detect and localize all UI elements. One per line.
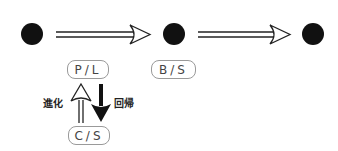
bs-label: B/S [159,63,188,77]
bs-box: B/S [151,60,196,79]
node-dot-2 [163,23,185,45]
cs-label: C/S [74,129,103,143]
arrow-up-hollow-icon [71,84,91,123]
cs-box: C/S [68,126,110,145]
arrow-down-solid-icon [91,84,111,122]
double-arrow-right-icon [56,25,150,44]
node-dot-1 [21,23,43,45]
pl-label: P/L [75,63,102,77]
regression-label: 回帰 [114,95,134,110]
double-arrow-right-icon [198,25,290,44]
pl-box: P/L [67,60,109,79]
evolution-label: 進化 [43,95,63,110]
node-dot-3 [302,23,324,45]
